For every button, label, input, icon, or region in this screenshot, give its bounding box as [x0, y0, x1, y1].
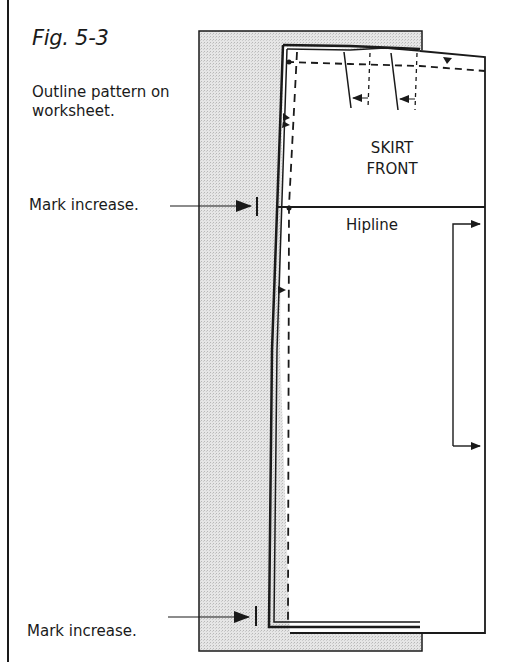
- callout-mark-increase-hip: Mark increase.: [29, 196, 139, 214]
- piece-label: SKIRT FRONT: [352, 138, 432, 180]
- piece-label-line1: SKIRT: [352, 138, 432, 159]
- pattern-diagram: [0, 0, 511, 662]
- waist-point-icon: [287, 60, 292, 65]
- callout-mark-increase-hem: Mark increase.: [27, 622, 137, 640]
- hipline-label: Hipline: [322, 215, 422, 236]
- piece-label-line2: FRONT: [352, 159, 432, 180]
